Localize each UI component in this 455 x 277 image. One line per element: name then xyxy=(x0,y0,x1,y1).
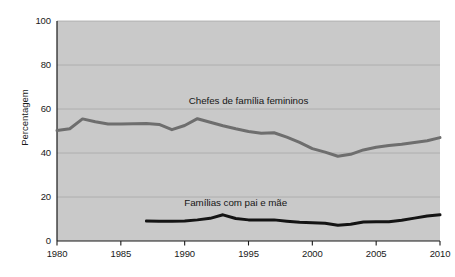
x-tick-label: 1995 xyxy=(229,248,269,259)
series-annotation-1: Famílias com pai e mãe xyxy=(184,197,287,208)
x-tick-label: 2010 xyxy=(420,248,455,259)
y-axis-title: Percentagem xyxy=(19,63,30,173)
x-tick-label: 2005 xyxy=(356,248,396,259)
y-tick-label: 100 xyxy=(23,15,51,26)
x-axis-ticks-group xyxy=(57,241,440,246)
y-tick-label: 0 xyxy=(23,235,51,246)
x-tick-label: 1980 xyxy=(37,248,77,259)
x-tick-label: 1985 xyxy=(101,248,141,259)
x-tick-label: 1990 xyxy=(165,248,205,259)
chart-figure: 020406080100 198019851990199520002005201… xyxy=(0,0,455,277)
y-tick-label: 20 xyxy=(23,191,51,202)
series-annotation-0: Chefes de família femininos xyxy=(189,95,309,106)
x-tick-label: 2000 xyxy=(292,248,332,259)
chart-plot-area xyxy=(0,0,455,277)
